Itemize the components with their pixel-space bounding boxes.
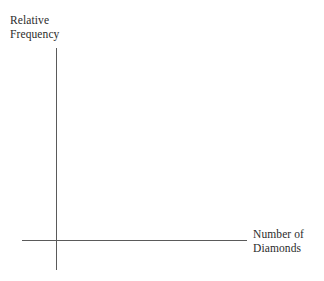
y-axis-label-line-1: Relative [10, 13, 59, 27]
chart-canvas: Relative Frequency Number of Diamonds [0, 0, 324, 281]
x-axis-label: Number of Diamonds [253, 227, 304, 255]
x-axis-label-line-2: Diamonds [253, 241, 304, 255]
x-axis-line [22, 240, 247, 241]
y-axis-line [56, 48, 57, 270]
y-axis-label: Relative Frequency [10, 13, 59, 41]
y-axis-label-line-2: Frequency [10, 27, 59, 41]
x-axis-label-line-1: Number of [253, 227, 304, 241]
